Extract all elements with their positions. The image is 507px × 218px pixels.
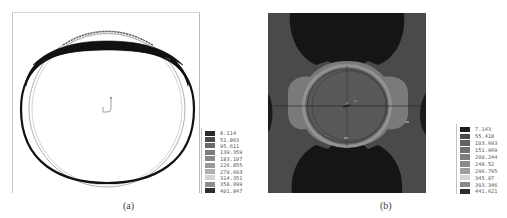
panel-a-plot: [12, 12, 200, 193]
legend-entry: 401.847: [205, 188, 243, 194]
legend-swatch: [460, 134, 470, 140]
legend-value: 200.244: [475, 154, 498, 160]
legend-entry: 55.418: [460, 133, 498, 140]
legend-swatch: [205, 143, 215, 148]
deformed-ring-plot: [13, 13, 201, 194]
legend-swatch: [460, 147, 470, 153]
legend-swatch: [205, 169, 215, 174]
legend-value: 7.143: [475, 126, 491, 132]
stress-contour-plot: [268, 13, 426, 193]
legend-value: 139.359: [220, 149, 243, 155]
legend-value: 314.351: [220, 175, 243, 181]
legend-value: 345.07: [475, 175, 494, 181]
legend-value: 441.621: [475, 188, 498, 194]
legend-swatch: [205, 131, 215, 136]
legend-entry: 296.795: [460, 167, 498, 174]
legend-entry: 151.969: [460, 147, 498, 154]
legend-swatch: [205, 137, 215, 142]
legend-value: 393.346: [475, 182, 498, 188]
node-label-marker: [344, 137, 348, 139]
legend-entry: 7.143: [460, 126, 498, 133]
panel-b-plot: [268, 13, 426, 193]
legend-value: 358.099: [220, 181, 243, 187]
legend-entry: 103.693: [460, 140, 498, 147]
legend-a: 8.114 51.863 95.611 139.359 183.107 226.…: [201, 128, 253, 194]
legend-value: 8.114: [220, 130, 236, 136]
legend-swatch: [205, 182, 215, 187]
legend-divider: [456, 124, 457, 194]
legend-value: 401.847: [220, 188, 243, 194]
legend-swatch: [460, 161, 470, 167]
legend-value: 95.611: [220, 143, 239, 149]
legend-value: 226.855: [220, 162, 243, 168]
legend-value: 183.107: [220, 156, 243, 162]
legend-swatch: [205, 175, 215, 180]
legend-swatch: [460, 175, 470, 181]
legend-swatch: [205, 188, 215, 193]
legend-swatch: [460, 182, 470, 188]
legend-entry: 95.611: [205, 143, 243, 149]
legend-value: 55.418: [475, 133, 494, 139]
legend-swatch: [460, 168, 470, 174]
legend-entry: 358.099: [205, 181, 243, 187]
legend-entry: 139.359: [205, 149, 243, 155]
legend-swatch: [460, 127, 470, 133]
legend-value: 51.863: [220, 137, 239, 143]
legend-value: 270.603: [220, 169, 243, 175]
legend-value: 248.52: [475, 161, 494, 167]
legend-entry: 345.07: [460, 174, 498, 181]
legend-swatch: [205, 150, 215, 155]
legend-entry: 226.855: [205, 162, 243, 168]
legend-entry: 393.346: [460, 181, 498, 188]
legend-divider: [201, 128, 202, 194]
legend-value: 103.693: [475, 140, 498, 146]
legend-swatch: [205, 156, 215, 161]
legend-entry: 200.244: [460, 154, 498, 161]
legend-entry: 183.107: [205, 156, 243, 162]
legend-value: 296.795: [475, 168, 498, 174]
legend-entry: 314.351: [205, 175, 243, 181]
legend-swatch: [205, 163, 215, 168]
legend-entry: 270.603: [205, 168, 243, 174]
legend-entry: 441.621: [460, 188, 498, 195]
center-axis-icon: [103, 97, 112, 112]
legend-entry: 248.52: [460, 160, 498, 167]
legend-swatch: [460, 140, 470, 146]
legend-swatch: [460, 189, 470, 195]
legend-entry: 51.863: [205, 136, 243, 142]
node-label-marker: [405, 121, 409, 123]
caption-a: (a): [123, 200, 134, 211]
legend-b: 7.143 55.418 103.693 151.969 200.244 248…: [456, 124, 507, 194]
legend-value: 151.969: [475, 147, 498, 153]
caption-b: (b): [380, 200, 392, 211]
legend-swatch: [460, 154, 470, 160]
